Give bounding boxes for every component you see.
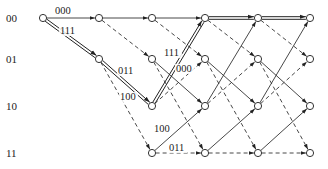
edge-solid-10-00 [207,22,256,103]
trellis-edges [47,18,308,153]
trellis-diagram: 00011011 000111011100111000100011 [0,0,328,169]
node-00-t5 [306,14,313,21]
edge-label: 011 [118,65,133,76]
edge-label: 011 [169,142,184,153]
node-00-t4 [254,14,261,21]
edge-label: 100 [154,123,170,134]
edge-dashed-01-11 [154,62,203,149]
edge-label: 000 [55,5,71,16]
edge-dashed-00-01 [208,20,255,56]
state-labels: 00011011 [6,12,18,159]
edge-solid-11-10 [208,109,255,151]
edge-dashed-00-01 [102,20,149,56]
node-01-t1 [95,55,102,62]
state-label-01: 01 [6,53,17,65]
edge-dashed-00-01 [261,20,307,56]
node-11-t2 [148,149,155,156]
node-00-t2 [148,14,155,21]
state-label-00: 00 [6,12,18,24]
edge-label: 000 [176,63,192,74]
node-11-t3 [201,149,208,156]
edge-dashed-01-11 [260,62,308,149]
node-11-t4 [254,149,261,156]
node-01-t5 [306,55,313,62]
node-10-t2 [148,102,155,109]
node-10-t5 [306,102,313,109]
node-01-t2 [148,55,155,62]
state-label-11: 11 [6,147,17,159]
edge-label: 111 [60,25,75,36]
node-00-t1 [95,14,102,21]
node-01-t4 [254,55,261,62]
node-10-t3 [201,102,208,109]
edge-dashed-01-11 [207,62,256,149]
node-00-t0 [39,14,46,21]
edge-solid-11-10 [261,109,307,151]
state-label-10: 10 [6,100,18,112]
edge-solid-10-00 [260,22,308,103]
trellis-nodes [39,14,313,156]
survivor-edge [153,21,202,102]
node-01-t3 [201,55,208,62]
edge-label: 100 [120,91,136,102]
node-10-t4 [254,102,261,109]
edge-label: 111 [164,47,179,58]
node-00-t3 [201,14,208,21]
node-11-t5 [306,149,313,156]
